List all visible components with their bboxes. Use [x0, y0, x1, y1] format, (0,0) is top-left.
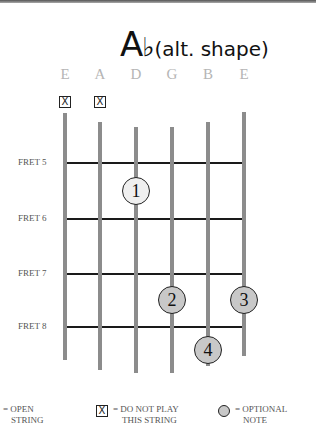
legend-optional-line2: NOTE	[235, 415, 287, 426]
legend-mute-line2: THIS STRING	[113, 415, 179, 426]
finger-note-3: 3	[230, 286, 258, 314]
legend-mute-line1: = DO NOT PLAY	[113, 404, 179, 415]
chord-root: A	[120, 24, 142, 64]
string-name-low-e: E	[55, 66, 75, 83]
string-name-b: B	[198, 66, 218, 83]
top-border	[0, 0, 316, 3]
string-b	[206, 122, 210, 366]
fret-label-7: FRET 7	[18, 268, 58, 278]
string-name-g: G	[162, 66, 182, 83]
mute-legend-icon: X	[96, 405, 108, 417]
finger-note-1: 1	[122, 177, 150, 205]
fret-line-5	[64, 162, 244, 164]
flat-symbol: ♭	[142, 32, 154, 62]
legend-optional-note: = OPTIONAL NOTE	[235, 404, 287, 426]
legend-open-line1: = OPEN	[3, 404, 44, 415]
fret-label-5: FRET 5	[18, 157, 58, 167]
fret-line-7	[64, 273, 244, 275]
legend-open-string: = OPEN STRING	[3, 404, 44, 426]
fret-label-6: FRET 6	[18, 213, 58, 223]
string-d	[134, 127, 138, 373]
legend-open-line2: STRING	[3, 415, 44, 426]
fret-line-6	[64, 218, 244, 220]
string-g	[170, 127, 174, 373]
chord-title: A♭(alt. shape)	[120, 24, 269, 64]
optional-note-legend-icon	[218, 405, 230, 417]
string-a	[98, 122, 102, 370]
string-name-high-e: E	[234, 66, 254, 83]
fret-line-8	[64, 326, 244, 328]
chord-suffix: (alt. shape)	[155, 37, 269, 61]
mute-marker-icon: X	[59, 96, 71, 108]
string-name-a: A	[90, 66, 110, 83]
finger-note-4: 4	[194, 336, 222, 364]
finger-note-2: 2	[158, 286, 186, 314]
mute-marker-icon: X	[94, 96, 106, 108]
string-low-e	[63, 113, 67, 360]
string-high-e	[242, 112, 246, 356]
legend-do-not-play: = DO NOT PLAY THIS STRING	[113, 404, 179, 426]
legend-optional-line1: = OPTIONAL	[235, 404, 287, 415]
fret-label-8: FRET 8	[18, 321, 58, 331]
string-name-d: D	[126, 66, 146, 83]
